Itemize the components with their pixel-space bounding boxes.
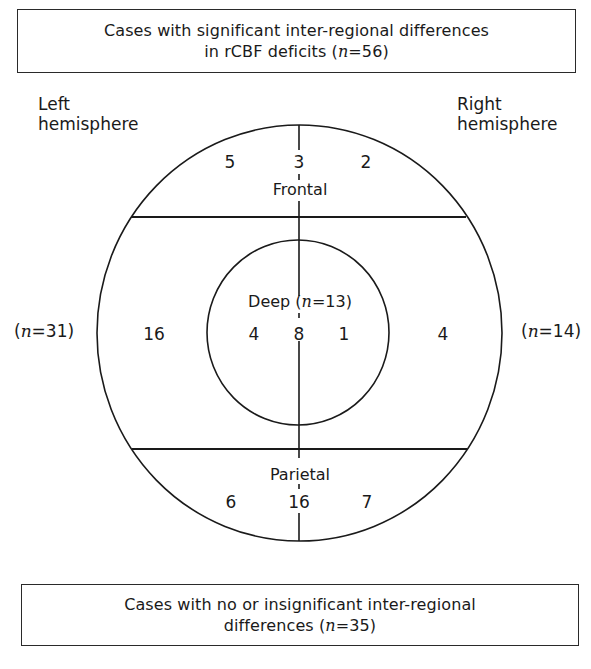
deep-midline-count: 8 bbox=[294, 324, 305, 344]
parietal-label: Parietal bbox=[270, 465, 330, 485]
no-significant-box-line2: differences (n=35) bbox=[224, 615, 376, 636]
deep-right-count: 1 bbox=[339, 324, 350, 344]
right-hemisphere-count: (n=14) bbox=[521, 321, 581, 341]
deep-left-count: 4 bbox=[249, 324, 260, 344]
frontal-left-count: 5 bbox=[225, 152, 236, 172]
parietal-right-count: 7 bbox=[362, 492, 373, 512]
left-hemisphere-count: (n=31) bbox=[14, 321, 74, 341]
frontal-midline-count: 3 bbox=[294, 152, 305, 172]
right-lateral-count: 4 bbox=[438, 324, 449, 344]
parietal-midline-count: 16 bbox=[288, 492, 310, 512]
deep-label: Deep (n=13) bbox=[248, 292, 352, 312]
left-hemisphere-label: Left hemisphere bbox=[38, 94, 138, 134]
no-significant-differences-box: Cases with no or insignificant inter-reg… bbox=[21, 584, 579, 646]
left-lateral-count: 16 bbox=[143, 324, 165, 344]
frontal-label: Frontal bbox=[273, 180, 328, 200]
parietal-left-count: 6 bbox=[226, 492, 237, 512]
no-significant-box-line1: Cases with no or insignificant inter-reg… bbox=[124, 594, 476, 615]
frontal-right-count: 2 bbox=[361, 152, 372, 172]
right-hemisphere-label: Right hemisphere bbox=[457, 94, 557, 134]
